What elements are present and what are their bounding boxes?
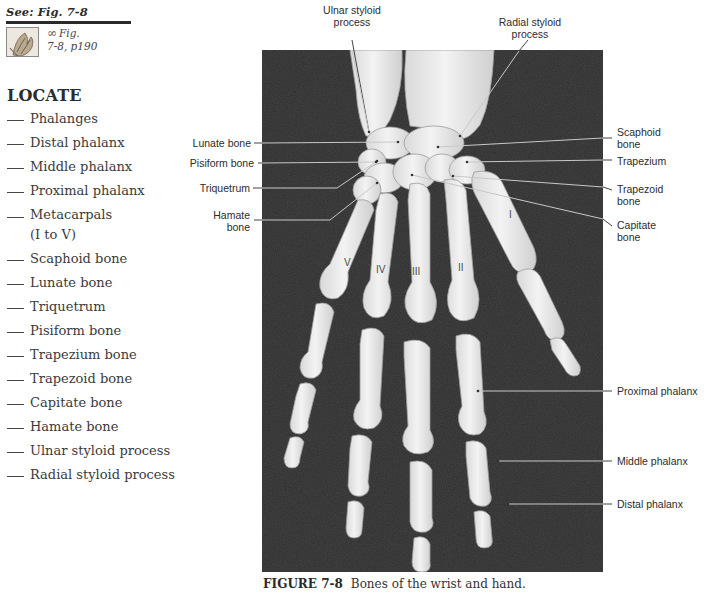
locate-checklist: Phalanges Distal phalanx Middle phalanx … [7,107,175,487]
figure-caption-label: FIGURE 7-8 [263,577,343,591]
label-radial-styloid-process: Radial styloid process [485,16,575,40]
label-triquetrum: Triquetrum [160,182,250,194]
checkbox-blank[interactable] [7,260,24,261]
checkbox-blank[interactable] [7,476,24,477]
checklist-item: Middle phalanx [7,155,175,179]
checkbox-blank[interactable] [7,452,24,453]
checklist-item: Radial styloid process [7,463,175,487]
label-trapezium: Trapezium [617,155,666,167]
checklist-item: Triquetrum [7,295,175,319]
hand-skeleton-illustration [262,50,603,572]
label-capitate-bone: Capitate bone [617,219,656,243]
checklist-item: Hamate bone [7,415,175,439]
figure-reference[interactable]: ∞Fig. 7-8, p190 [6,27,131,57]
label-proximal-phalanx: Proximal phalanx [617,385,698,397]
checkbox-blank[interactable] [7,308,24,309]
numeral-ii: II [458,262,464,273]
checkbox-blank[interactable] [7,192,24,193]
see-figure-title: See: Fig. 7-8 [6,5,131,24]
link-icon: ∞ [47,26,54,40]
label-lunate-bone: Lunate bone [160,137,251,149]
label-trapezoid-bone: Trapezoid bone [617,183,663,207]
checkbox-blank[interactable] [7,428,24,429]
label-hamate-bone: Hamate bone [200,209,250,233]
label-ulnar-styloid-process: Ulnar styloid process [312,4,392,28]
hand-bones-photo [262,50,603,572]
figure-caption: FIGURE 7-8Bones of the wrist and hand. [263,577,526,591]
checkbox-blank[interactable] [7,168,24,169]
figure-caption-text: Bones of the wrist and hand. [351,577,526,591]
checkbox-blank[interactable] [7,356,24,357]
numeral-iv: IV [376,264,385,275]
figure-reference-text[interactable]: ∞Fig. 7-8, p190 [47,27,97,53]
checklist-item: Distal phalanx [7,131,175,155]
checklist-item: Capitate bone [7,391,175,415]
see-figure-box: See: Fig. 7-8 ∞Fig. 7-8, p190 [6,5,131,57]
ref-line-1: Fig. [59,27,80,39]
checkbox-blank[interactable] [7,120,24,121]
checkbox-blank[interactable] [7,144,24,145]
label-middle-phalanx: Middle phalanx [617,455,688,467]
label-pisiform-bone: Pisiform bone [160,157,254,169]
checklist-item: Proximal phalanx [7,179,175,203]
checkbox-blank[interactable] [7,332,24,333]
checkbox-blank[interactable] [7,217,24,218]
checklist-item: Scaphoid bone [7,247,175,271]
checkbox-blank[interactable] [7,404,24,405]
checklist-item: Pisiform bone [7,319,175,343]
numeral-v: V [344,257,351,268]
checklist-item: Lunate bone [7,271,175,295]
checkbox-blank[interactable] [7,284,24,285]
anatomy-thumbnail-icon[interactable] [6,27,39,57]
label-scaphoid-bone: Scaphoid bone [617,126,661,150]
checkbox-blank[interactable] [7,380,24,381]
numeral-iii: III [412,266,420,277]
locate-heading: LOCATE [7,86,82,105]
numeral-i: I [509,209,512,220]
checklist-item: Phalanges [7,107,175,131]
checklist-item: Ulnar styloid process [7,439,175,463]
checklist-item: Trapezium bone [7,343,175,367]
checklist-item: Trapezoid bone [7,367,175,391]
label-distal-phalanx: Distal phalanx [617,498,683,510]
checklist-item: Metacarpals(I to V) [7,203,175,247]
ref-line-2: 7-8, p190 [47,40,97,52]
